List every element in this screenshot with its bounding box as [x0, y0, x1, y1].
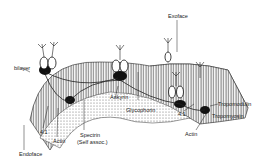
membrane-diagram	[0, 0, 256, 164]
label-glycophorin: Glycophorin	[126, 108, 155, 114]
label-tropomodulin: Tropomodulin	[218, 102, 251, 108]
label-band41-right: 4.1	[178, 112, 186, 118]
label-tropomyosin: Tropomyosin	[212, 114, 244, 120]
label-spectrin: Spectrin	[80, 133, 100, 139]
label-actin-left: Actin	[53, 139, 65, 145]
label-band41-left: 4.1	[40, 130, 48, 136]
label-actin-right: Actin	[185, 132, 197, 138]
label-bilayer: bilayer	[14, 66, 30, 72]
label-exoface: Exoface	[168, 14, 188, 20]
label-ankyrin: Ankyrin	[110, 95, 128, 101]
label-endoface: Endoface	[19, 152, 42, 158]
label-spectrin-note: (Self assoc.)	[77, 140, 108, 146]
